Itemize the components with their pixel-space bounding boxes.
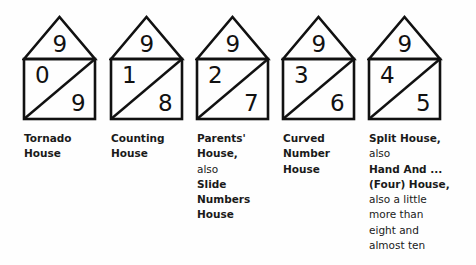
caption-line: (Four) House,	[369, 177, 450, 192]
caption-line: almost ten	[369, 238, 450, 253]
right-number: 9	[71, 92, 86, 115]
caption-line: House	[283, 162, 330, 177]
house-outline-icon	[109, 0, 189, 125]
house-outline-icon	[367, 0, 447, 125]
caption-line: Counting	[111, 131, 164, 146]
roof-number: 9	[140, 33, 155, 56]
house-caption-3: Parents'House,alsoSlideNumbersHouse	[197, 131, 250, 223]
caption-line: Split House,	[369, 131, 450, 146]
house-caption-5: Split House,alsoHand And ...(Four) House…	[369, 131, 450, 253]
left-number: 1	[122, 64, 137, 87]
roof-number: 9	[226, 33, 241, 56]
right-number: 5	[416, 92, 431, 115]
caption-line: also a little	[369, 192, 450, 207]
caption-line: also	[197, 162, 250, 177]
right-number: 6	[330, 92, 345, 115]
caption-line: more than	[369, 207, 450, 222]
house-caption-1: TornadoHouse	[24, 131, 71, 162]
caption-line: House	[197, 207, 250, 222]
right-number: 7	[244, 92, 259, 115]
caption-line: Tornado	[24, 131, 71, 146]
caption-line: Number	[283, 146, 330, 161]
number-house-5: 945	[367, 0, 447, 125]
roof-number: 9	[398, 33, 413, 56]
left-number: 3	[294, 64, 309, 87]
caption-line: House	[24, 146, 71, 161]
caption-line: also	[369, 146, 450, 161]
number-house-1: 909	[22, 0, 102, 125]
left-number: 4	[380, 64, 395, 87]
house-outline-icon	[281, 0, 361, 125]
caption-line: Slide	[197, 177, 250, 192]
number-house-2: 918	[109, 0, 189, 125]
caption-line: eight and	[369, 223, 450, 238]
house-outline-icon	[22, 0, 102, 125]
caption-line: Parents'	[197, 131, 250, 146]
caption-line: Curved	[283, 131, 330, 146]
house-caption-4: CurvedNumberHouse	[283, 131, 330, 177]
caption-line: Numbers	[197, 192, 250, 207]
left-number: 2	[208, 64, 223, 87]
number-house-3: 927	[195, 0, 275, 125]
house-outline-icon	[195, 0, 275, 125]
caption-line: Hand And ...	[369, 162, 450, 177]
roof-number: 9	[53, 33, 68, 56]
caption-line: House	[111, 146, 164, 161]
roof-number: 9	[312, 33, 327, 56]
caption-line: House,	[197, 146, 250, 161]
house-caption-2: CountingHouse	[111, 131, 164, 162]
left-number: 0	[35, 64, 50, 87]
number-house-4: 936	[281, 0, 361, 125]
right-number: 8	[158, 92, 173, 115]
